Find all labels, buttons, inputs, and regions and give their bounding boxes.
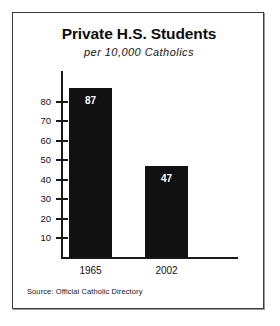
y-axis-tick-label: 20 <box>13 213 51 224</box>
y-axis-tick <box>56 218 68 220</box>
y-axis-tick-label: 10 <box>13 232 51 243</box>
y-axis-tick <box>56 120 68 122</box>
plot-area: 8070605040302010 8747 19652002 <box>13 13 264 309</box>
y-axis-tick <box>56 101 68 103</box>
y-axis-tick <box>56 179 68 181</box>
x-axis-tick-label: 1965 <box>61 265 121 276</box>
y-axis-tick <box>56 140 68 142</box>
y-axis-tick <box>56 198 68 200</box>
y-axis-tick <box>56 237 68 239</box>
bar-value-label: 47 <box>145 173 188 184</box>
chart-figure: Private H.S. Students per 10,000 Catholi… <box>12 12 264 309</box>
y-axis-tick <box>56 159 68 161</box>
y-axis-tick-label: 40 <box>13 174 51 185</box>
bar-value-label: 87 <box>69 95 112 106</box>
y-axis-line <box>61 71 63 259</box>
y-axis-tick-label: 70 <box>13 115 51 126</box>
y-axis-tick-label: 30 <box>13 193 51 204</box>
x-axis-tick-label: 2002 <box>137 265 197 276</box>
y-axis-tick-label: 60 <box>13 135 51 146</box>
y-axis-tick-label: 80 <box>13 96 51 107</box>
bar <box>69 88 112 258</box>
source-note: Source: Official Catholic Directory <box>27 287 142 296</box>
y-axis-tick-label: 50 <box>13 154 51 165</box>
